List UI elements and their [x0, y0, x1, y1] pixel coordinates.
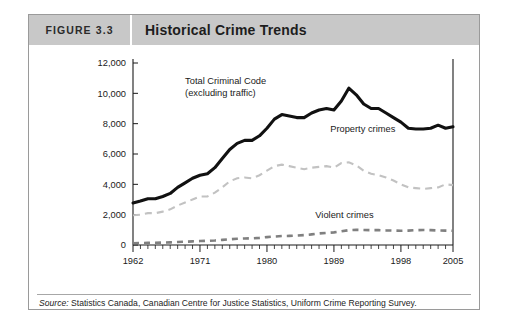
svg-text:Total Criminal Code: Total Criminal Code	[185, 76, 266, 86]
series-line-violent-crimes	[133, 230, 453, 243]
svg-text:10,000: 10,000	[98, 89, 126, 99]
svg-text:(excluding traffic): (excluding traffic)	[185, 88, 256, 98]
series-annotations: Total Criminal Code(excluding traffic)Pr…	[185, 76, 396, 220]
svg-text:0: 0	[121, 240, 126, 250]
svg-text:1962: 1962	[123, 256, 144, 266]
svg-text:4,000: 4,000	[103, 180, 126, 190]
svg-text:1998: 1998	[391, 256, 412, 266]
annotation-property-crimes: Property crimes	[330, 124, 395, 134]
annotation-violent-crimes: Violent crimes	[315, 210, 374, 220]
figure-header-banner: FIGURE 3.3 Historical Crime Trends	[29, 15, 479, 45]
y-axis-tick-labels: 02,0004,0006,0008,00010,00012,000	[98, 58, 126, 250]
figure-frame: FIGURE 3.3 Historical Crime Trends 02,00…	[28, 14, 480, 310]
svg-text:2005: 2005	[443, 256, 464, 266]
svg-text:12,000: 12,000	[98, 58, 126, 68]
figure-number: FIGURE 3.3	[45, 24, 113, 36]
figure-title-cell: Historical Crime Trends	[132, 15, 479, 45]
x-axis-tick-labels: 196219711980198919982005	[123, 256, 464, 266]
svg-text:Property crimes: Property crimes	[330, 124, 395, 134]
svg-text:2,000: 2,000	[103, 210, 126, 220]
svg-text:Violent crimes: Violent crimes	[315, 210, 374, 220]
svg-text:1989: 1989	[324, 256, 345, 266]
source-label: Source:	[39, 298, 69, 308]
chart-plot-area: 02,0004,0006,0008,00010,00012,000 196219…	[29, 45, 479, 285]
y-axis-ticks	[133, 63, 138, 245]
x-axis-minor-ticks	[133, 245, 453, 252]
crime-trends-line-chart: 02,0004,0006,0008,00010,00012,000 196219…	[29, 45, 479, 285]
svg-text:6,000: 6,000	[103, 149, 126, 159]
source-note: Source: Statistics Canada, Canadian Cent…	[39, 298, 471, 309]
series-line-property-crimes	[133, 162, 453, 215]
figure-number-cell: FIGURE 3.3	[29, 15, 132, 45]
source-text: Statistics Canada, Canadian Centre for J…	[69, 298, 417, 308]
source-divider	[37, 294, 471, 295]
figure-title: Historical Crime Trends	[145, 22, 307, 38]
svg-text:1980: 1980	[257, 256, 278, 266]
svg-text:8,000: 8,000	[103, 119, 126, 129]
svg-text:1971: 1971	[190, 256, 211, 266]
annotation-total-criminal-code: Total Criminal Code(excluding traffic)	[185, 76, 266, 98]
